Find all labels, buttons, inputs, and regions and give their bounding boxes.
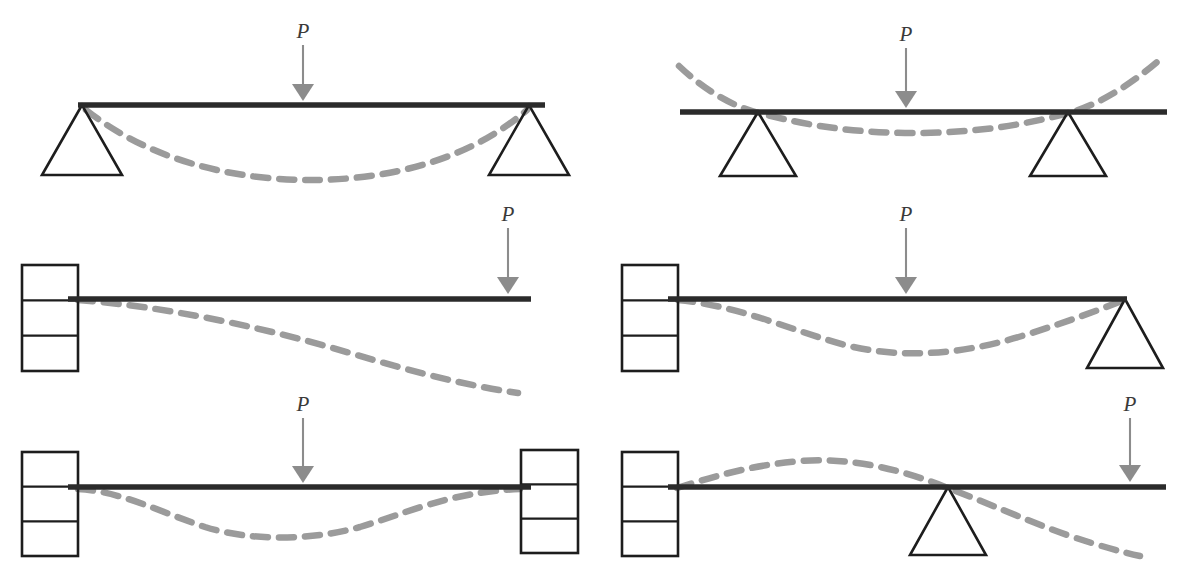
load-label-P: P xyxy=(296,392,310,416)
figure-canvas: PPPPPP xyxy=(0,0,1187,575)
load-label-P: P xyxy=(296,19,310,43)
fixed-wall-support-0 xyxy=(22,265,78,371)
load-label-P: P xyxy=(899,202,913,226)
load-label-P: P xyxy=(501,202,515,226)
fixed-wall-support-0 xyxy=(622,452,678,556)
beam-panel-simply-supported: P xyxy=(42,19,569,180)
beam-panel-overhanging-both-ends: P xyxy=(679,22,1167,176)
beam-panel-fixed-fixed: P xyxy=(22,392,578,556)
deflection-curve xyxy=(677,460,1140,556)
deflection-curve xyxy=(78,489,520,538)
load-arrow-head xyxy=(895,277,917,294)
load-arrow-head xyxy=(895,91,917,108)
pin-support-1 xyxy=(910,487,986,555)
load-arrow-head xyxy=(292,466,314,483)
fixed-wall-support-0 xyxy=(22,452,78,556)
pin-support-0 xyxy=(42,105,122,175)
deflection-curve xyxy=(86,110,527,180)
beam-panel-propped-cantilever: P xyxy=(622,202,1163,371)
fixed-wall-support-1 xyxy=(521,450,578,553)
load-arrow-head xyxy=(497,277,519,294)
pin-support-1 xyxy=(489,105,569,175)
load-label-P: P xyxy=(899,22,913,46)
load-arrow-head xyxy=(1119,465,1141,482)
beam-deflection-figure: PPPPPP xyxy=(0,0,1187,575)
beam-panel-fixed-with-interior-prop-overhang: P xyxy=(622,392,1166,556)
fixed-wall-support-0 xyxy=(622,265,678,371)
load-arrow-head xyxy=(292,84,314,101)
deflection-curve xyxy=(78,300,518,393)
deflection-curve xyxy=(678,300,1124,353)
load-label-P: P xyxy=(1123,392,1137,416)
beam-panel-cantilever-free-end: P xyxy=(22,202,531,393)
